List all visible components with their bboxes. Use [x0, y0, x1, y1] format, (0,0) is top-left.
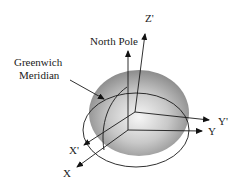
- x-label: X: [63, 167, 71, 179]
- greenwich-label-line1: Greenwich: [14, 56, 62, 68]
- coordinate-frames-diagram: [0, 0, 239, 188]
- north-pole-label: North Pole: [90, 35, 138, 47]
- y-prime-label: Y': [218, 115, 228, 127]
- greenwich-label-line2: Meridian: [19, 69, 59, 81]
- z-prime-label: Z': [145, 12, 154, 24]
- y-label: Y: [208, 125, 216, 137]
- x-prime-label: X': [69, 144, 79, 156]
